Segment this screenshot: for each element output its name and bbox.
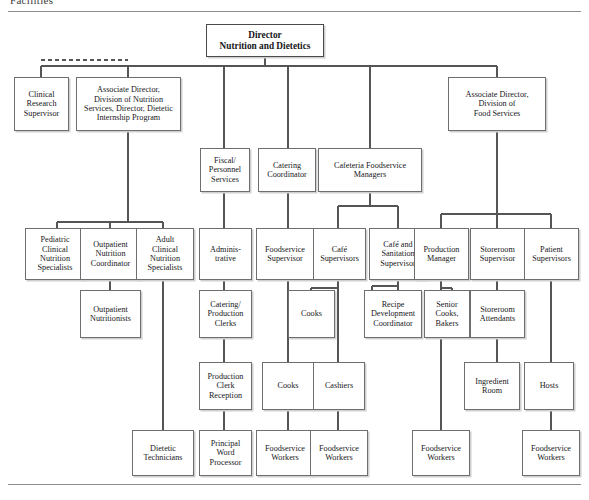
node-senior-cooks-bakers: SeniorCooks,Bakers [424,290,470,338]
node-outpatient-nutrition-coordinator-label: OutpatientNutritionCoordinator [91,240,131,268]
node-foodservice-workers-2-label: FoodserviceWorkers [319,444,359,463]
node-hosts-label: Hosts [540,381,559,390]
node-principal-word-processor: PrincipalWordProcessor [199,430,252,476]
node-storeroom-attendants: StoreroomAttendants [470,290,525,338]
node-cashiers-label: Cashiers [325,381,353,390]
node-senior-cooks-bakers-label: SeniorCooks,Bakers [436,300,459,328]
node-production-manager: ProductionManager [414,228,469,280]
node-recipe-development-coordinator-label: RecipeDevelopmentCoordinator [371,300,415,328]
node-foodservice-workers-3: FoodserviceWorkers [412,430,470,476]
node-fiscal-personnel-services-label: Fiscal/PersonnelServices [209,156,241,184]
node-director-label: DirectorNutrition and Dietetics [220,30,311,51]
node-patient-supervisors-label: PatientSupervisors [532,245,571,264]
node-fiscal-personnel-services: Fiscal/PersonnelServices [200,148,250,192]
node-cashiers: Cashiers [313,362,365,410]
node-foodservice-workers-1: FoodserviceWorkers [256,430,314,476]
node-dietetic-technicians-label: DieteticTechnicians [144,444,183,463]
node-pediatric-clinical-nutrition-specialists-label: PediatricClinicalNutritionSpecialists [37,235,72,272]
node-associate-director-food-services: Associate Director,Division ofFood Servi… [448,77,546,131]
node-catering-coordinator: CateringCoordinator [258,148,316,192]
node-clinical-research-supervisor: ClinicalResearchSupervisor [14,77,69,131]
node-administrative-label: Adminis-trative [210,245,241,264]
node-adult-clinical-nutrition-specialists-label: AdultClinicalNutritionSpecialists [147,235,182,272]
node-foodservice-supervisor: FoodserviceSupervisor [256,228,314,280]
node-catering-production-clerks: Catering/ProductionClerks [199,290,252,338]
node-cooks-cafe-label: Cooks [301,309,322,318]
node-cooks-lower-label: Cooks [278,381,299,390]
node-catering-coordinator-label: CateringCoordinator [267,161,307,180]
node-recipe-development-coordinator: RecipeDevelopmentCoordinator [364,290,422,338]
node-patient-supervisors: PatientSupervisors [524,228,579,280]
node-cafeteria-foodservice-managers: Cafeteria FoodserviceManagers [318,148,422,192]
node-director: DirectorNutrition and Dietetics [206,24,324,57]
node-associate-director-nutrition-label: Associate Director,Division of Nutrition… [84,85,173,122]
node-cooks-cafe: Cooks [288,290,335,338]
node-outpatient-nutritionists: OutpatientNutritionists [80,290,141,338]
node-catering-production-clerks-label: Catering/ProductionClerks [208,300,244,328]
node-foodservice-workers-3-label: FoodserviceWorkers [421,444,461,463]
node-foodservice-workers-4-label: FoodserviceWorkers [531,444,571,463]
node-ingredient-room-label: IngredientRoom [475,377,509,396]
node-storeroom-attendants-label: StoreroomAttendants [480,305,515,324]
node-foodservice-workers-2: FoodserviceWorkers [310,430,368,476]
node-associate-director-food-services-label: Associate Director,Division ofFood Servi… [466,90,529,118]
node-principal-word-processor-label: PrincipalWordProcessor [210,439,242,467]
node-clinical-research-supervisor-label: ClinicalResearchSupervisor [24,90,59,118]
node-outpatient-nutritionists-label: OutpatientNutritionists [90,305,131,324]
node-production-manager-label: ProductionManager [424,245,460,264]
node-foodservice-workers-1-label: FoodserviceWorkers [265,444,305,463]
node-cafeteria-foodservice-managers-label: Cafeteria FoodserviceManagers [334,161,406,180]
node-production-clerk-reception-label: ProductionClerkReception [208,372,244,400]
node-adult-clinical-nutrition-specialists: AdultClinicalNutritionSpecialists [136,228,194,280]
node-production-clerk-reception: ProductionClerkReception [199,362,252,410]
node-outpatient-nutrition-coordinator: OutpatientNutritionCoordinator [80,228,141,280]
node-cafe-sanitation-supervisor-label: Café andSanitationSupervisor [380,240,415,268]
node-foodservice-workers-4: FoodserviceWorkers [522,430,580,476]
node-hosts: Hosts [524,362,574,410]
node-cafe-supervisors: CaféSupervisors [313,228,366,280]
node-cooks-lower: Cooks [262,362,314,410]
node-storeroom-supervisor-label: StoreroomSupervisor [480,245,515,264]
node-foodservice-supervisor-label: FoodserviceSupervisor [265,245,305,264]
node-dietetic-technicians: DieteticTechnicians [132,430,194,476]
node-cafe-supervisors-label: CaféSupervisors [320,245,359,264]
node-pediatric-clinical-nutrition-specialists: PediatricClinicalNutritionSpecialists [25,228,85,280]
node-administrative: Adminis-trative [199,228,252,280]
node-storeroom-supervisor: StoreroomSupervisor [470,228,525,280]
node-associate-director-nutrition: Associate Director,Division of Nutrition… [76,77,181,131]
node-ingredient-room: IngredientRoom [464,362,520,410]
org-chart-page: Facilities [0,0,589,500]
